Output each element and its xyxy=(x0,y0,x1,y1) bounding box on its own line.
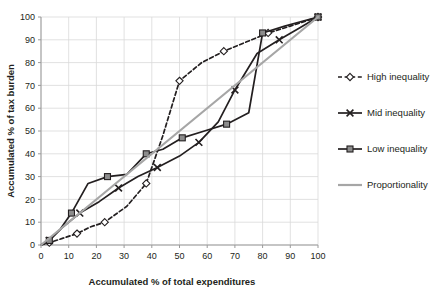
y-tick-label: 10 xyxy=(25,217,35,227)
x-tick-label: 80 xyxy=(258,251,268,261)
legend-label: Proportionality xyxy=(367,179,428,190)
data-point-marker-square xyxy=(104,174,110,180)
data-point-marker-square xyxy=(224,121,230,127)
y-tick-label: 0 xyxy=(30,240,35,250)
data-point-marker-square xyxy=(347,146,353,152)
x-tick-label: 70 xyxy=(230,251,240,261)
x-tick-label: 100 xyxy=(310,251,325,261)
x-tick-label: 60 xyxy=(202,251,212,261)
x-tick-label: 50 xyxy=(174,251,184,261)
y-axis-title: Accumulated % of tax burden xyxy=(5,64,16,198)
y-tick-label: 40 xyxy=(25,149,35,159)
data-point-marker-square xyxy=(179,135,185,141)
x-tick-label: 10 xyxy=(64,251,74,261)
chart-container: 0102030405060708090100 01020304050607080… xyxy=(0,0,441,303)
y-tick-label: 30 xyxy=(25,172,35,182)
legend-label: Mid inequality xyxy=(367,107,425,118)
legend-label: High inequality xyxy=(367,71,430,82)
x-tick-label: 30 xyxy=(119,251,129,261)
y-tick-label: 90 xyxy=(25,35,35,45)
legend-label: Low inequality xyxy=(367,143,427,154)
data-point-marker-square xyxy=(260,30,266,36)
y-tick-label: 70 xyxy=(25,81,35,91)
lorenz-curve-chart: 0102030405060708090100 01020304050607080… xyxy=(0,0,441,303)
x-tick-label: 90 xyxy=(285,251,295,261)
x-tick-label: 40 xyxy=(147,251,157,261)
x-tick-label: 20 xyxy=(91,251,101,261)
y-tick-label: 100 xyxy=(20,12,35,22)
y-tick-label: 20 xyxy=(25,195,35,205)
x-axis-title: Accumulated % of total expenditures xyxy=(89,276,256,287)
data-point-marker-square xyxy=(68,210,74,216)
y-tick-label: 80 xyxy=(25,58,35,68)
y-tick-label: 50 xyxy=(25,126,35,136)
y-tick-label: 60 xyxy=(25,103,35,113)
x-tick-label: 0 xyxy=(38,251,43,261)
